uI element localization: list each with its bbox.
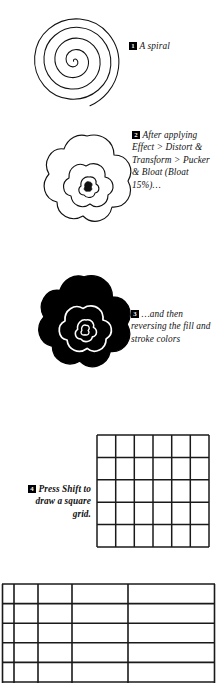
square-grid-svg	[96, 434, 210, 548]
bloat-core-path	[84, 182, 92, 191]
spiral-tail-path	[90, 68, 119, 106]
spiral-svg	[18, 2, 130, 114]
caption-4-badge: 4	[28, 485, 36, 493]
spiral-path	[35, 19, 119, 99]
reversed-outer-path	[39, 276, 130, 367]
caption-1-badge: 1	[129, 42, 137, 50]
caption-3-badge: 3	[131, 310, 139, 318]
caption-3: 3…and then reversing the fill and stroke…	[131, 308, 215, 345]
caption-1: 1A spiral	[129, 40, 213, 52]
bloat-svg	[40, 122, 136, 232]
square-grid-figure	[96, 434, 210, 548]
wide-grid-svg	[2, 583, 215, 683]
wide-grid-lines	[2, 584, 215, 683]
caption-4: 4Press Shift to draw a square grid.	[18, 483, 91, 520]
bloated-spiral-figure	[40, 122, 136, 232]
square-grid-lines	[97, 435, 209, 547]
reversed-svg	[33, 262, 137, 378]
caption-1-text: A spiral	[140, 41, 170, 51]
caption-2-badge: 2	[132, 131, 140, 139]
reversed-colors-figure	[33, 262, 137, 378]
caption-2: 2After applying Effect > Distort & Trans…	[132, 129, 214, 191]
caption-2-text: After applying Effect > Distort & Transf…	[132, 130, 210, 190]
caption-3-text: …and then reversing the fill and stroke …	[131, 309, 211, 344]
wide-grid-figure	[2, 583, 215, 683]
caption-4-text: Press Shift to draw a square grid.	[35, 484, 91, 519]
spiral-figure	[18, 2, 130, 114]
